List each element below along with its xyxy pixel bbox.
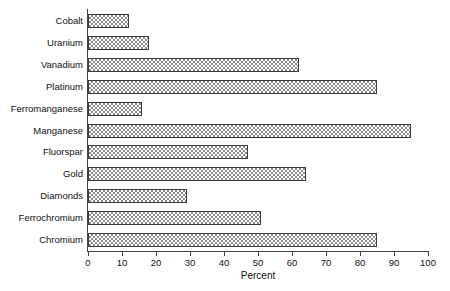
bar-gold [88, 167, 306, 181]
category-label-diamonds: Diamonds [0, 189, 83, 203]
x-tick-label-70: 70 [311, 257, 341, 268]
bar-fill [88, 124, 411, 138]
bar-fill [88, 58, 299, 72]
bar-fill [88, 36, 149, 50]
x-tick-30 [190, 252, 191, 256]
category-label-ferrochromium: Ferrochromium [0, 211, 83, 225]
bar-ferrochromium [88, 211, 261, 225]
bar-fill [88, 102, 142, 116]
x-tick-label-20: 20 [141, 257, 171, 268]
bar-fill [88, 145, 248, 159]
bar-chart: CobaltUraniumVanadiumPlatinumFerromangan… [0, 0, 450, 291]
x-tick-0 [88, 252, 89, 256]
bar-ferromanganese [88, 102, 142, 116]
category-label-cobalt: Cobalt [0, 14, 83, 28]
bar-fill [88, 14, 129, 28]
category-label-fluorspar: Fluorspar [0, 145, 83, 159]
x-tick-label-10: 10 [107, 257, 137, 268]
category-label-uranium: Uranium [0, 36, 83, 50]
bar-chromium [88, 233, 377, 247]
category-label-gold: Gold [0, 167, 83, 181]
x-tick-label-60: 60 [277, 257, 307, 268]
x-tick-label-50: 50 [243, 257, 273, 268]
bar-diamonds [88, 189, 187, 203]
bar-fluorspar [88, 145, 248, 159]
bar-fill [88, 189, 187, 203]
x-axis-ticks: 0102030405060708090100 [88, 252, 429, 272]
category-label-chromium: Chromium [0, 233, 83, 247]
x-tick-label-40: 40 [209, 257, 239, 268]
category-label-vanadium: Vanadium [0, 58, 83, 72]
x-tick-label-80: 80 [345, 257, 375, 268]
bar-vanadium [88, 58, 299, 72]
x-tick-10 [122, 252, 123, 256]
x-tick-label-90: 90 [379, 257, 409, 268]
x-tick-20 [156, 252, 157, 256]
bar-fill [88, 80, 377, 94]
bar-platinum [88, 80, 377, 94]
bar-manganese [88, 124, 411, 138]
x-axis-title: Percent [88, 270, 428, 281]
x-tick-60 [292, 252, 293, 256]
x-tick-70 [326, 252, 327, 256]
category-label-manganese: Manganese [0, 124, 83, 138]
x-tick-90 [394, 252, 395, 256]
category-axis-labels: CobaltUraniumVanadiumPlatinumFerromangan… [0, 10, 83, 251]
plot-area [88, 10, 428, 251]
category-label-platinum: Platinum [0, 80, 83, 94]
x-tick-label-100: 100 [413, 257, 443, 268]
bar-fill [88, 211, 261, 225]
x-tick-40 [224, 252, 225, 256]
bar-fill [88, 167, 306, 181]
x-tick-label-30: 30 [175, 257, 205, 268]
x-tick-80 [360, 252, 361, 256]
bar-cobalt [88, 14, 129, 28]
bar-fill [88, 233, 377, 247]
x-tick-50 [258, 252, 259, 256]
x-tick-label-0: 0 [73, 257, 103, 268]
category-label-ferromanganese: Ferromanganese [0, 102, 83, 116]
x-tick-100 [428, 252, 429, 256]
bar-uranium [88, 36, 149, 50]
